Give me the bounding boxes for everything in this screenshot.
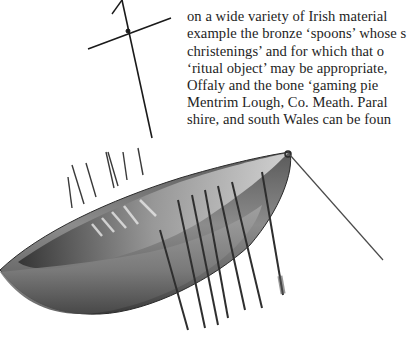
mast-icon	[88, 0, 171, 138]
